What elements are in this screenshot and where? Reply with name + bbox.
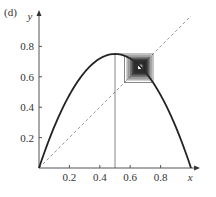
x-axis-label: x [187, 171, 193, 183]
cobweb-plot: 0.20.40.60.80.20.40.60.8xy (d) [0, 0, 216, 197]
y-axis-arrow-icon [37, 10, 42, 16]
y-tick-label: 0.4 [20, 101, 34, 113]
x-tick-label: 0.6 [123, 171, 137, 183]
x-axis-arrow-icon [194, 166, 200, 171]
y-tick-label: 0.2 [20, 132, 34, 144]
panel-label: (d) [4, 6, 17, 19]
y-tick-label: 0.8 [20, 40, 34, 52]
x-tick-label: 0.2 [63, 171, 77, 183]
x-tick-label: 0.8 [154, 171, 168, 183]
y-tick-label: 0.6 [20, 71, 34, 83]
y-axis-label: y [27, 10, 33, 22]
x-tick-label: 0.4 [93, 171, 107, 183]
cobweb-path [115, 54, 153, 168]
